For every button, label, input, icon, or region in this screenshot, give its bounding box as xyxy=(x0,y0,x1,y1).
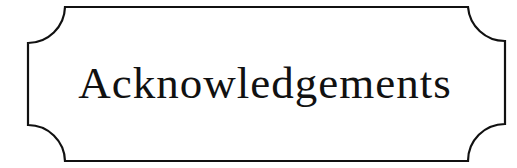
plaque-title: Acknowledgements xyxy=(0,57,517,109)
acknowledgements-plaque: Acknowledgements xyxy=(0,0,517,168)
